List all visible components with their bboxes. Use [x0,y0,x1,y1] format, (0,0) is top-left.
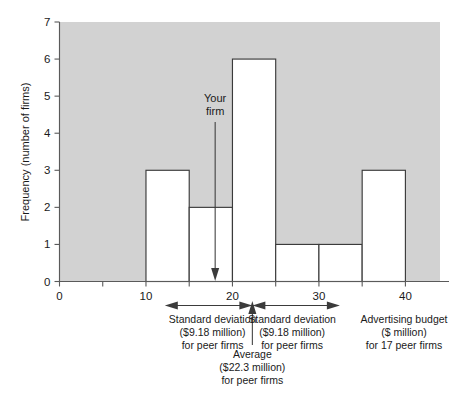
average-line1: Average [233,348,272,360]
your-firm-label-line1: Your [204,92,227,104]
y-tick-label: 3 [44,164,50,176]
x-tick-label: 30 [313,290,326,302]
x-tick-labels: 010203040 [56,290,412,302]
bar-20-25 [276,244,319,281]
average-caption: Average ($22.3 million) for peer firms [219,348,285,386]
sd-right-line2: ($9.18 million) [259,326,325,338]
sd-left-arrow [165,302,253,310]
y-tick-label: 1 [44,238,50,250]
average-line3: for peer firms [221,374,283,386]
x-tick-label: 20 [226,290,239,302]
sd-right-head-end [327,302,340,310]
y-tick-label: 6 [44,53,50,65]
sd-left-head-start [165,302,178,310]
your-firm-label-line2: firm [206,105,224,117]
y-tick-label: 7 [44,16,50,28]
average-line2: ($22.3 million) [219,361,285,373]
sd-right-arrow [252,302,340,310]
y-tick-label: 4 [44,127,51,139]
bar-5-10 [146,170,189,281]
x-caption-line1: Advertising budget [361,313,448,325]
bar-30-35 [362,170,405,281]
bar-15-20 [232,59,275,281]
sd-right-line1: Standard deviation [248,313,336,325]
x-tick-label: 10 [140,290,153,302]
x-ticks [60,282,406,287]
y-axis-title: Frequency (number of firms) [19,83,31,222]
y-tick-label: 5 [44,90,50,102]
chart-figure: 01234567 010203040 Frequency (number of … [0,0,470,416]
sd-left-line1: Standard deviation [169,313,257,325]
x-axis-caption: Advertising budget ($ million) for 17 pe… [361,313,448,351]
sd-left-caption: Standard deviation ($9.18 million) for p… [169,313,257,351]
bar-10-15 [189,207,232,281]
bar-25-30 [319,244,362,281]
y-ticks [55,22,60,282]
sd-right-caption: Standard deviation ($9.18 million) for p… [248,313,336,351]
x-tick-label: 40 [399,290,412,302]
y-tick-label: 2 [44,201,50,213]
y-tick-labels: 01234567 [44,16,51,288]
x-caption-line3: for 17 peer firms [366,339,442,351]
x-caption-line2: ($ million) [381,326,427,338]
y-tick-label: 0 [44,276,50,288]
x-tick-label: 0 [56,290,62,302]
sd-left-line2: ($9.18 million) [180,326,246,338]
histogram-chart: 01234567 010203040 Frequency (number of … [0,0,470,416]
